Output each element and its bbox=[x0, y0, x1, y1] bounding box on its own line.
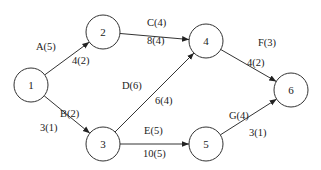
network-diagram: 123456 A(5)4(2)B(2)3(1)C(4)8(4)D(6)6(4)E… bbox=[0, 0, 321, 170]
node-label: 6 bbox=[288, 84, 294, 96]
edge-value-label: 6(4) bbox=[155, 95, 173, 107]
activity-label: G(4) bbox=[229, 110, 249, 122]
edge-3-4 bbox=[115, 53, 194, 132]
node-6: 6 bbox=[274, 73, 308, 107]
edge-value-label: 4(2) bbox=[72, 55, 90, 67]
activity-label: E(5) bbox=[144, 125, 163, 137]
activity-label: F(3) bbox=[258, 37, 277, 49]
node-label: 2 bbox=[100, 26, 106, 38]
node-5: 5 bbox=[189, 127, 223, 161]
edge-value-label: 8(4) bbox=[147, 35, 165, 47]
node-2: 2 bbox=[86, 15, 120, 49]
edge-value-label: 4(2) bbox=[247, 57, 265, 69]
labels-layer: A(5)4(2)B(2)3(1)C(4)8(4)D(6)6(4)E(5)10(5… bbox=[36, 17, 277, 160]
activity-label: A(5) bbox=[36, 41, 56, 53]
activity-label: B(2) bbox=[60, 108, 80, 120]
arrow-icon bbox=[115, 53, 194, 132]
node-label: 1 bbox=[28, 79, 34, 91]
activity-label: D(6) bbox=[122, 80, 142, 92]
node-label: 5 bbox=[203, 138, 209, 150]
node-label: 4 bbox=[203, 35, 209, 47]
node-label: 3 bbox=[100, 138, 106, 150]
edge-value-label: 3(1) bbox=[40, 122, 58, 134]
edge-value-label: 3(1) bbox=[249, 127, 267, 139]
node-3: 3 bbox=[86, 127, 120, 161]
node-1: 1 bbox=[14, 68, 48, 102]
node-4: 4 bbox=[189, 24, 223, 58]
edge-value-label: 10(5) bbox=[143, 148, 166, 160]
activity-label: C(4) bbox=[147, 17, 167, 29]
